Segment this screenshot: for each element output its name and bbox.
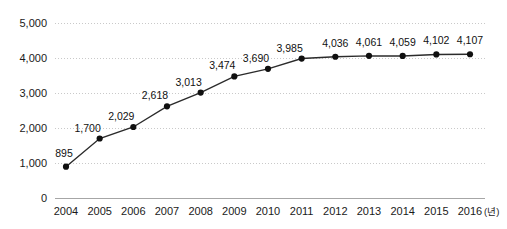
data-point-marker bbox=[366, 53, 372, 59]
data-point-label: 3,474 bbox=[209, 59, 235, 71]
x-axis-tick-label: 2007 bbox=[155, 205, 179, 217]
data-point-marker bbox=[299, 55, 305, 61]
data-point-marker bbox=[265, 66, 271, 72]
data-point-label: 3,985 bbox=[277, 42, 303, 54]
data-point-label: 1,700 bbox=[75, 122, 101, 134]
data-point-marker bbox=[400, 53, 406, 59]
x-axis-tick-labels: 2004200520062007200820092010201120122013… bbox=[54, 205, 482, 217]
data-point-label: 4,102 bbox=[423, 34, 449, 46]
data-point-marker bbox=[332, 54, 338, 60]
y-axis-tick-label: 0 bbox=[41, 192, 47, 204]
y-axis-tick-label: 2,000 bbox=[19, 122, 47, 134]
y-axis-tick-label: 3,000 bbox=[19, 87, 47, 99]
gridlines bbox=[55, 24, 485, 164]
data-point-label: 2,618 bbox=[142, 89, 168, 101]
data-point-label: 4,059 bbox=[390, 36, 416, 48]
x-axis-unit-label: (년) bbox=[484, 206, 499, 217]
y-axis-tick-labels: 01,0002,0003,0004,0005,000 bbox=[19, 17, 47, 204]
data-point-marker bbox=[467, 51, 473, 57]
line-chart: 01,0002,0003,0004,0005,000 2004200520062… bbox=[0, 0, 507, 229]
x-axis-tick-label: 2016 bbox=[458, 205, 482, 217]
x-axis-tick-label: 2015 bbox=[424, 205, 448, 217]
chart-canvas: 01,0002,0003,0004,0005,000 2004200520062… bbox=[0, 0, 507, 229]
x-axis-tick-label: 2010 bbox=[256, 205, 280, 217]
data-point-marker bbox=[97, 135, 103, 141]
x-axis-tick-label: 2006 bbox=[121, 205, 145, 217]
data-point-marker bbox=[164, 103, 170, 109]
x-axis-tick-label: 2013 bbox=[357, 205, 381, 217]
data-point-marker bbox=[231, 73, 237, 79]
data-point-label: 4,036 bbox=[322, 37, 348, 49]
x-axis-tick-label: 2004 bbox=[54, 205, 78, 217]
data-point-label: 3,690 bbox=[243, 52, 269, 64]
data-point-label: 2,029 bbox=[108, 110, 134, 122]
data-point-labels: 8951,7002,0292,6183,0133,4743,6903,9854,… bbox=[55, 34, 483, 158]
y-axis-tick-label: 5,000 bbox=[19, 17, 47, 29]
data-point-label: 895 bbox=[55, 147, 73, 159]
y-axis-tick-label: 4,000 bbox=[19, 52, 47, 64]
x-axis-tick-label: 2011 bbox=[290, 205, 314, 217]
data-point-label: 4,107 bbox=[457, 34, 483, 46]
x-axis-tick-label: 2014 bbox=[390, 205, 414, 217]
x-axis-tick-label: 2009 bbox=[222, 205, 246, 217]
data-point-marker bbox=[130, 124, 136, 130]
x-axis-tick-label: 2012 bbox=[323, 205, 347, 217]
y-axis-tick-label: 1,000 bbox=[19, 157, 47, 169]
x-axis-tick-label: 2008 bbox=[188, 205, 212, 217]
data-point-label: 3,013 bbox=[176, 76, 202, 88]
data-point-label: 4,061 bbox=[356, 36, 382, 48]
data-point-marker bbox=[198, 89, 204, 95]
x-axis-tick-label: 2005 bbox=[87, 205, 111, 217]
data-point-marker bbox=[433, 51, 439, 57]
data-point-marker bbox=[63, 164, 69, 170]
